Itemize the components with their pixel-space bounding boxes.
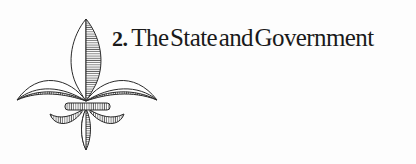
chapter-title: The State and Government (131, 24, 373, 51)
chapter-heading: 2.The State and Government (112, 24, 374, 52)
chapter-number: 2. (112, 26, 127, 51)
book-page: 2.The State and Government (0, 0, 416, 164)
